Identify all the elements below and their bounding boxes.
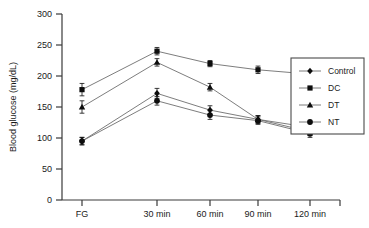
legend-item-label: DC	[328, 83, 340, 93]
chart-figure: 0 50 100 150 200 250 300 Blood glucose (…	[0, 0, 369, 228]
y-tick-label-250: 250	[37, 40, 52, 50]
x-tick-label-fg: FG	[76, 209, 89, 219]
legend-item-label: DT	[328, 100, 339, 110]
y-tick-label-200: 200	[37, 71, 52, 81]
data-point	[79, 87, 84, 92]
data-point	[154, 98, 160, 104]
chart-legend: ControlDCDTNT	[291, 58, 364, 134]
legend-marker-circle-icon	[307, 119, 313, 125]
data-point	[255, 118, 261, 124]
x-tick-label-60min: 60 min	[196, 209, 223, 219]
x-tick-label-30min: 30 min	[143, 209, 170, 219]
x-tick-label-120min: 120 min	[294, 209, 326, 219]
y-tick-label-300: 300	[37, 9, 52, 19]
y-tick-label-100: 100	[37, 133, 52, 143]
y-tick-label-50: 50	[42, 164, 52, 174]
y-tick-label-150: 150	[37, 102, 52, 112]
data-point	[79, 138, 85, 144]
data-point	[255, 67, 260, 72]
legend-item-label: Control	[328, 66, 356, 76]
data-point	[207, 61, 212, 66]
legend-marker-square-icon	[307, 85, 312, 90]
line-chart-canvas: 0 50 100 150 200 250 300 Blood glucose (…	[0, 0, 369, 228]
x-tick-label-90min: 90 min	[244, 209, 271, 219]
y-axis-title: Blood glucose (mg/dL)	[8, 62, 18, 152]
y-tick-label-0: 0	[47, 195, 52, 205]
legend-item-label: NT	[328, 117, 339, 127]
data-point	[154, 49, 159, 54]
data-point	[207, 112, 213, 118]
